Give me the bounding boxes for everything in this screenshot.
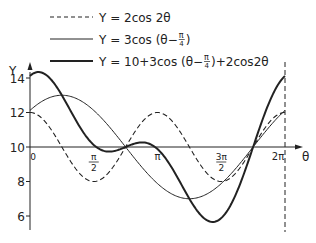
chart: Y = 2cos 2θ Y = 3cos (θ− Y = 10+3cos (θ−…	[0, 0, 316, 243]
y-tick-label: 12	[10, 106, 25, 120]
legend-suffix: )+2cos2θ	[211, 55, 269, 69]
legend-frac-den: 4	[179, 40, 184, 48]
y-tick-label: 14	[10, 72, 25, 86]
y-tick-label: 6	[17, 210, 25, 224]
axes: Y θ	[8, 62, 309, 232]
y-axis-arrow-icon	[28, 62, 33, 70]
legend-frac-den: 4	[205, 62, 210, 70]
y-tick-label: 8	[17, 175, 25, 189]
y-ticks: 68101214	[10, 72, 30, 224]
y-tick-label: 10	[10, 141, 25, 155]
x-tick-label: π	[154, 151, 160, 162]
x-axis-label: θ	[302, 150, 309, 164]
x-tick-label-num: 3π	[216, 152, 228, 162]
x-tick-label: 0	[30, 152, 36, 162]
legend-suffix: )	[186, 33, 191, 47]
x-tick-label-den: 2	[91, 163, 97, 173]
legend-label-1: Y = 2cos 2θ	[98, 11, 171, 25]
x-axis-arrow-icon	[295, 145, 303, 150]
legend-frac-num: π	[204, 53, 209, 62]
x-tick-label-den: 2	[218, 163, 224, 173]
legend: Y = 2cos 2θ Y = 3cos (θ− Y = 10+3cos (θ−…	[50, 11, 269, 70]
x-tick-label: 2π	[272, 151, 284, 162]
legend-label-2: Y = 3cos (θ−	[98, 33, 178, 47]
legend-frac-num: π	[179, 31, 184, 40]
legend-label-3: Y = 10+3cos (θ−	[98, 55, 203, 69]
x-tick-label-num: π	[91, 152, 97, 162]
